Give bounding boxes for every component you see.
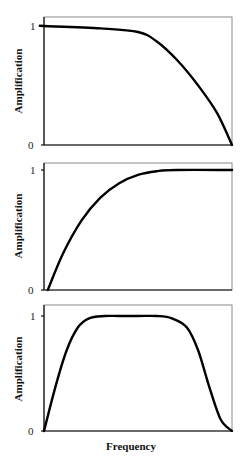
series-line-band-pass [44, 316, 232, 431]
plot-frame [44, 163, 232, 290]
x-axis-label: Frequency [106, 440, 156, 452]
y-axis-label: Amplification [12, 49, 24, 114]
y-tick-label-0: 0 [28, 284, 34, 296]
y-tick-label-0: 0 [28, 425, 34, 437]
series-line-high-pass [48, 170, 232, 290]
series-line-low-pass [40, 26, 232, 145]
chart-panel-high-pass: 1 0 Amplification [12, 163, 232, 296]
plot-frame [44, 17, 232, 145]
y-tick-label-1: 1 [30, 164, 36, 176]
y-axis-label: Amplification [12, 337, 24, 402]
chart-panel-low-pass: 1 0 Amplification [12, 17, 232, 151]
y-tick-label-1: 1 [30, 20, 36, 32]
y-axis-label: Amplification [12, 194, 24, 259]
chart-panel-band-pass: 1 0 Amplification Frequency [12, 305, 232, 452]
filter-response-figure: 1 0 Amplification 1 0 Amplification 1 0 … [0, 0, 242, 458]
y-tick-label-1: 1 [30, 310, 36, 322]
y-tick-label-0: 0 [28, 139, 34, 151]
